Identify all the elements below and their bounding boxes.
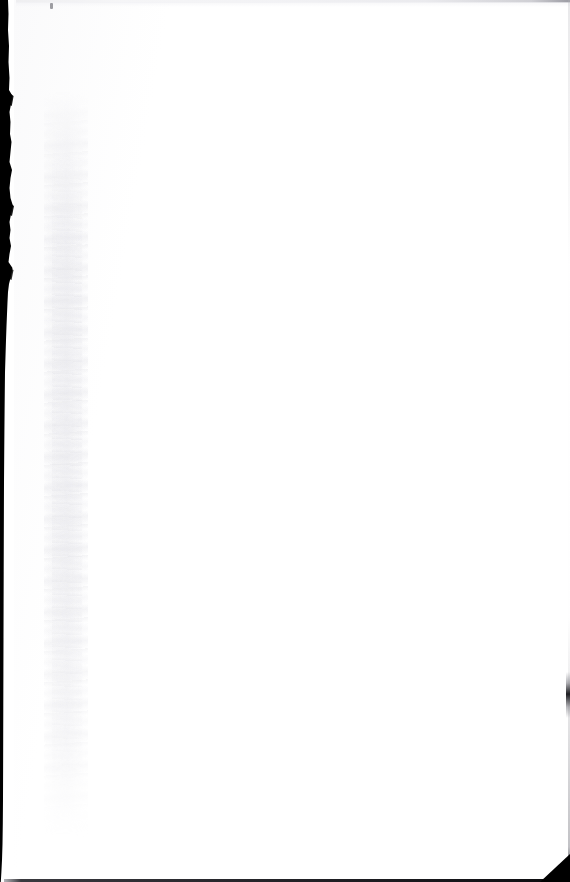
left-binding-shadow-shape <box>0 0 16 882</box>
bottom-right-corner-wedge-shape <box>540 854 570 882</box>
scanned-page <box>0 0 570 882</box>
right-edge-sliver <box>566 672 570 718</box>
paper-tone <box>14 0 570 882</box>
dust-speck <box>50 3 53 9</box>
left-binding-shadow <box>0 0 16 882</box>
bottom-right-corner-wedge <box>540 854 570 882</box>
bleed-through-band-inner <box>52 150 82 790</box>
top-paper-edge-soft <box>16 2 570 7</box>
